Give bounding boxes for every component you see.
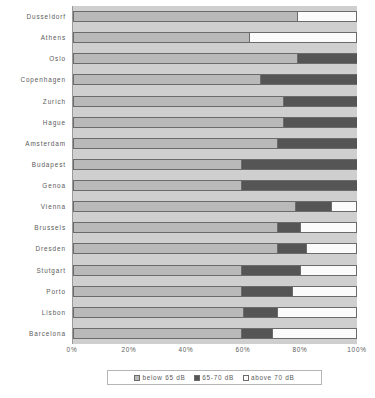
y-axis-label-barcelona: Barcelona — [0, 328, 66, 339]
y-axis-label-stutgart: Stutgart — [0, 265, 66, 276]
bar-segment — [292, 286, 357, 297]
bar-row — [73, 117, 357, 128]
y-axis-label-hague: Hague — [0, 117, 66, 128]
bar-segment — [73, 96, 283, 107]
bar-segment — [241, 286, 292, 297]
bar-segment — [277, 307, 357, 318]
chart-legend: below 65 dB65-70 dBabove 70 dB — [107, 370, 322, 385]
x-axis-tick-60: 60% — [235, 346, 250, 353]
y-axis-label-lisbon: Lisbon — [0, 307, 66, 318]
bar-segment — [73, 117, 283, 128]
bar-segment — [277, 138, 357, 149]
bar-row — [73, 201, 357, 212]
x-axis-tick-100: 100% — [347, 346, 367, 353]
legend-label: below 65 dB — [142, 374, 185, 381]
bar-segment — [241, 180, 357, 191]
legend-item[interactable]: 65-70 dB — [194, 374, 234, 381]
bar-segment — [249, 32, 357, 43]
bar-segment — [73, 32, 249, 43]
legend-label: 65-70 dB — [202, 374, 234, 381]
bar-segment — [73, 243, 277, 254]
bar-segment — [73, 328, 241, 339]
legend-swatch-icon — [243, 375, 249, 381]
bar-segment — [277, 243, 305, 254]
bar-segment — [243, 307, 277, 318]
bar-segment — [297, 11, 357, 22]
bar-segment — [331, 201, 357, 212]
bar-segment — [73, 11, 297, 22]
bar-segment — [73, 265, 241, 276]
bar-segment — [73, 53, 297, 64]
legend-item[interactable]: below 65 dB — [134, 374, 185, 381]
y-axis-label-amsterdam: Amsterdam — [0, 138, 66, 149]
bar-row — [73, 32, 357, 43]
bar-segment — [306, 243, 357, 254]
bar-row — [73, 74, 357, 85]
legend-label: above 70 dB — [251, 374, 295, 381]
bar-row — [73, 138, 357, 149]
bar-segment — [241, 328, 272, 339]
plot-area — [72, 6, 357, 344]
y-axis-label-budapest: Budapest — [0, 159, 66, 170]
bar-segment — [73, 307, 243, 318]
bar-segment — [277, 222, 300, 233]
bar-row — [73, 307, 357, 318]
legend-item[interactable]: above 70 dB — [243, 374, 295, 381]
bar-row — [73, 180, 357, 191]
y-axis-label-zurich: Zurich — [0, 96, 66, 107]
bar-row — [73, 11, 357, 22]
bar-segment — [295, 201, 332, 212]
y-axis-label-brussels: Brussels — [0, 222, 66, 233]
bar-segment — [73, 138, 277, 149]
y-axis-label-porto: Porto — [0, 286, 66, 297]
x-axis-tick-0: 0% — [67, 346, 78, 353]
y-axis-label-copenhagen: Copenhagen — [0, 74, 66, 85]
bar-segment — [73, 180, 241, 191]
legend-swatch-icon — [134, 375, 140, 381]
y-axis-label-genoa: Genoa — [0, 180, 66, 191]
y-axis-label-dusseldorf: Dusseldorf — [0, 11, 66, 22]
bar-row — [73, 243, 357, 254]
bar-segment — [260, 74, 357, 85]
legend-swatch-icon — [194, 375, 200, 381]
bar-segment — [241, 159, 357, 170]
bar-segment — [73, 222, 277, 233]
bar-segment — [283, 96, 357, 107]
bar-segment — [272, 328, 357, 339]
x-axis-tick-20: 20% — [121, 346, 136, 353]
bar-segment — [283, 117, 357, 128]
bar-segment — [297, 53, 357, 64]
bar-row — [73, 96, 357, 107]
bar-segment — [73, 286, 241, 297]
bar-row — [73, 222, 357, 233]
bar-segment — [241, 265, 301, 276]
x-axis-tick-80: 80% — [292, 346, 307, 353]
y-axis-label-vienna: Vienna — [0, 201, 66, 212]
bar-row — [73, 286, 357, 297]
x-axis-tick-labels: 0%20%40%60%80%100% — [72, 344, 357, 358]
bar-row — [73, 328, 357, 339]
bar-segment — [300, 222, 357, 233]
y-axis-label-athens: Athens — [0, 32, 66, 43]
x-axis-tick-40: 40% — [178, 346, 193, 353]
bar-segment — [73, 159, 241, 170]
noise-exposure-stacked-bar-chart: DusseldorfAthensOsloCopenhagenZurichHagu… — [0, 0, 375, 398]
y-axis-label-dresden: Dresden — [0, 243, 66, 254]
y-axis-category-labels: DusseldorfAthensOsloCopenhagenZurichHagu… — [0, 6, 70, 344]
bar-segment — [73, 201, 295, 212]
bar-segment — [73, 74, 260, 85]
bar-segment — [300, 265, 357, 276]
bar-row — [73, 159, 357, 170]
bar-row — [73, 53, 357, 64]
bar-row — [73, 265, 357, 276]
y-axis-label-oslo: Oslo — [0, 53, 66, 64]
